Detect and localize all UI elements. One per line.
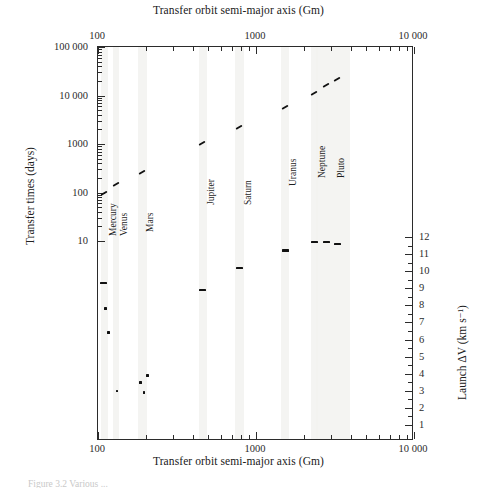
launch-dv-point bbox=[107, 331, 110, 334]
launch-dv-point bbox=[334, 243, 341, 245]
planet-label-mars: Mars bbox=[145, 212, 155, 232]
left-ytick-30000 bbox=[98, 72, 102, 73]
left-ytick-label-10: 10 bbox=[30, 235, 88, 246]
left-ytick-8000 bbox=[98, 100, 102, 101]
right-ytick-2 bbox=[405, 408, 412, 409]
left-ytick-500 bbox=[98, 159, 102, 160]
bottom-xtick-8000 bbox=[399, 435, 400, 439]
left-ytick-70000 bbox=[98, 55, 102, 56]
right-ytick-minor-4 bbox=[408, 365, 412, 366]
right-ytick-9 bbox=[405, 288, 412, 289]
bottom-xtick-10000 bbox=[414, 432, 415, 439]
planet-label-jupiter: Jupiter bbox=[206, 179, 216, 205]
launch-dv-point bbox=[199, 289, 206, 291]
bottom-xtick-500 bbox=[208, 435, 209, 439]
launch-dv-point bbox=[311, 241, 318, 243]
left-ytick-10000 bbox=[98, 96, 105, 97]
planet-band-saturn bbox=[235, 47, 244, 439]
planet-label-pluto: Pluto bbox=[336, 158, 346, 178]
left-ytick-label-10000: 10 000 bbox=[30, 89, 88, 100]
top-axis-title: Transfer orbit semi-major axis (Gm) bbox=[0, 4, 477, 16]
right-ytick-5 bbox=[405, 357, 412, 358]
left-ytick-2000 bbox=[98, 129, 102, 130]
right-ytick-label-3: 3 bbox=[419, 384, 445, 395]
right-ytick-11 bbox=[405, 254, 412, 255]
top-xtick-2000 bbox=[304, 47, 305, 51]
bottom-xtick-700 bbox=[232, 435, 233, 439]
plot-area bbox=[97, 46, 413, 440]
bottom-xtick-4000 bbox=[351, 435, 352, 439]
top-xtick-800 bbox=[241, 47, 242, 51]
right-ytick-label-9: 9 bbox=[419, 282, 445, 293]
launch-dv-point bbox=[104, 307, 107, 310]
launch-dv-point bbox=[146, 374, 149, 377]
right-ytick-10 bbox=[405, 271, 412, 272]
left-ytick-6000 bbox=[98, 106, 102, 107]
figure-panel: Transfer orbit semi-major axis (Gm) Tran… bbox=[0, 0, 477, 488]
left-ytick-800 bbox=[98, 149, 102, 150]
top-xtick-5000 bbox=[366, 47, 367, 51]
top-xtick-8000 bbox=[399, 47, 400, 51]
left-ytick-200 bbox=[98, 178, 102, 179]
left-ytick-20000 bbox=[98, 81, 102, 82]
right-ytick-7 bbox=[405, 322, 412, 323]
left-ytick-label-1000: 1000 bbox=[30, 138, 88, 149]
bottom-xtick-900 bbox=[249, 435, 250, 439]
left-ytick-900 bbox=[98, 146, 102, 147]
planet-band-jupiter bbox=[199, 47, 207, 439]
top-xtick-600 bbox=[221, 47, 222, 51]
left-ytick-3000 bbox=[98, 121, 102, 122]
planet-band-venus bbox=[113, 47, 119, 439]
right-ytick-minor-8 bbox=[408, 297, 412, 298]
top-xtick-1000 bbox=[256, 47, 257, 54]
top-xtick-label-1000: 1000 bbox=[245, 30, 266, 41]
right-ytick-label-12: 12 bbox=[419, 231, 445, 242]
left-ytick-50000 bbox=[98, 62, 102, 63]
bottom-xtick-label-10000: 10 000 bbox=[399, 443, 428, 454]
right-ytick-label-4: 4 bbox=[419, 367, 445, 378]
left-ytick-4000 bbox=[98, 115, 102, 116]
right-ytick-label-7: 7 bbox=[419, 316, 445, 327]
top-xtick-400 bbox=[193, 47, 194, 51]
left-ytick-60 bbox=[98, 203, 102, 204]
left-ytick-80 bbox=[98, 197, 102, 198]
top-xtick-200 bbox=[146, 47, 147, 51]
left-ytick-70 bbox=[98, 200, 102, 201]
top-xtick-300 bbox=[173, 47, 174, 51]
bottom-axis-title: Transfer orbit semi-major axis (Gm) bbox=[0, 455, 477, 467]
right-ytick-1 bbox=[405, 425, 412, 426]
top-xtick-4000 bbox=[351, 47, 352, 51]
bottom-xtick-200 bbox=[146, 435, 147, 439]
top-xtick-9000 bbox=[407, 47, 408, 51]
left-ytick-50 bbox=[98, 207, 102, 208]
right-ytick-3 bbox=[405, 391, 412, 392]
right-ytick-minor-2 bbox=[408, 399, 412, 400]
left-ytick-9000 bbox=[98, 98, 102, 99]
right-ytick-minor-3 bbox=[408, 382, 412, 383]
right-ytick-minor-10 bbox=[408, 263, 412, 264]
left-ytick-30 bbox=[98, 218, 102, 219]
top-xtick-10000 bbox=[414, 47, 415, 54]
bottom-xtick-1000 bbox=[256, 432, 257, 439]
right-ytick-minor-7 bbox=[408, 314, 412, 315]
planet-label-mercury: Mercury bbox=[108, 203, 118, 236]
top-xtick-500 bbox=[208, 47, 209, 51]
right-ytick-label-6: 6 bbox=[419, 333, 445, 344]
left-ytick-1000 bbox=[98, 144, 105, 145]
planet-band-pluto bbox=[316, 47, 350, 439]
left-ytick-100000 bbox=[98, 47, 105, 48]
bottom-xtick-400 bbox=[193, 435, 194, 439]
bottom-xtick-800 bbox=[241, 435, 242, 439]
right-ytick-minor-11 bbox=[408, 246, 412, 247]
bottom-xtick-7000 bbox=[390, 435, 391, 439]
bottom-xtick-100 bbox=[98, 432, 99, 439]
bottom-xtick-label-1000: 1000 bbox=[245, 443, 266, 454]
bottom-xtick-2000 bbox=[304, 435, 305, 439]
bottom-xtick-600 bbox=[221, 435, 222, 439]
left-ytick-10 bbox=[98, 241, 105, 242]
figure-caption: Figure 3.2 Various ... bbox=[28, 479, 452, 488]
right-ytick-minor-9 bbox=[408, 280, 412, 281]
left-ytick-5000 bbox=[98, 110, 102, 111]
launch-dv-point bbox=[236, 267, 243, 269]
right-ytick-minor-1 bbox=[408, 416, 412, 417]
